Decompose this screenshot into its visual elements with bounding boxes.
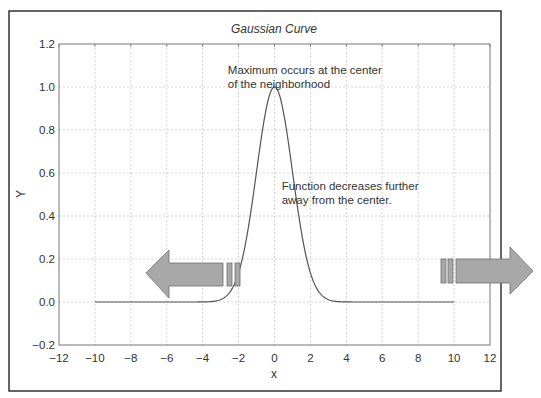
y-tick-label: 0.8: [39, 124, 55, 136]
x-tick-label: 8: [415, 352, 421, 364]
x-tick-label: 0: [271, 352, 277, 364]
gaussian-chart: Gaussian Curve −12−10−8−6−4−2024681012 −…: [0, 0, 541, 398]
x-tick-label: −8: [124, 352, 137, 364]
x-tick-label: 6: [379, 352, 385, 364]
y-tick-label: 0.2: [39, 253, 55, 265]
chart-title: Gaussian Curve: [231, 22, 317, 36]
annotation-text: Maximum occurs at the center: [228, 64, 382, 76]
y-tick-label: 0.0: [39, 296, 55, 308]
x-tick-label: 10: [448, 352, 461, 364]
x-tick-label: 4: [343, 352, 350, 364]
y-tick-label: 0.4: [39, 210, 56, 222]
x-tick-label: −10: [85, 352, 105, 364]
x-tick-label: −12: [49, 352, 69, 364]
annotation-text: of the neighborhood: [228, 78, 330, 90]
y-tick-label: 1.2: [39, 38, 55, 50]
y-tick-label: 0.6: [39, 167, 55, 179]
x-tick-label: −4: [196, 352, 210, 364]
x-tick-label: 2: [307, 352, 313, 364]
x-tick-label: 12: [484, 352, 497, 364]
y-tick-label: −0.2: [32, 339, 55, 351]
x-tick-label: −2: [232, 352, 245, 364]
y-tick-label: 1.0: [39, 81, 55, 93]
x-axis-label: x: [271, 367, 277, 381]
y-axis-label: Y: [14, 190, 28, 198]
annotation-text: Function decreases further: [282, 180, 419, 192]
annotation-text: away from the center.: [282, 194, 392, 206]
x-tick-label: −6: [160, 352, 173, 364]
